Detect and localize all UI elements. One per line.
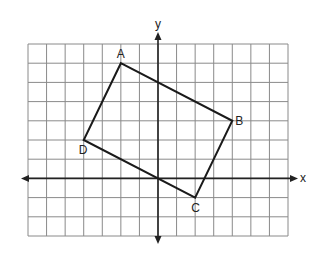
x-axis-arrow-right-icon <box>290 175 298 182</box>
vertex-label-a: A <box>117 47 125 61</box>
x-axis-arrow-left-icon <box>21 175 29 182</box>
vertex-label-d: D <box>79 143 88 157</box>
coordinate-plane: x y A B C D <box>0 0 321 255</box>
vertex-label-c: C <box>191 201 200 215</box>
coordinate-plane-figure: x y A B C D <box>0 0 321 255</box>
vertex-label-b: B <box>235 114 243 128</box>
y-axis-arrow-down-icon <box>155 236 162 244</box>
axes: x y <box>21 17 306 244</box>
vertex-labels: A B C D <box>79 47 244 214</box>
x-axis-label: x <box>300 171 306 185</box>
y-axis-arrow-up-icon <box>155 32 162 40</box>
y-axis-label: y <box>155 17 161 31</box>
